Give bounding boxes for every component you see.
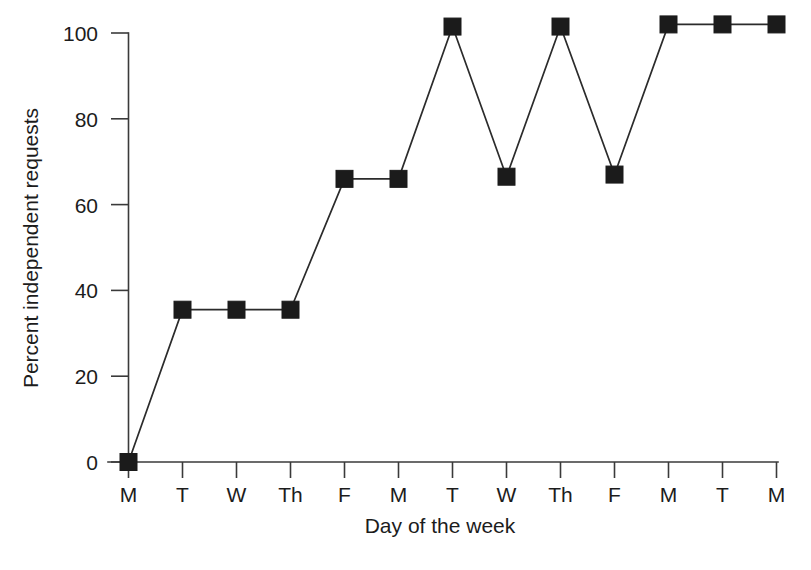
data-point-marker bbox=[174, 301, 191, 318]
data-point-marker bbox=[714, 16, 731, 33]
y-tick-label-20: 20 bbox=[75, 365, 98, 388]
x-tick-label-3: W bbox=[227, 483, 247, 506]
x-tick-label-1: M bbox=[120, 483, 138, 506]
data-point-marker bbox=[390, 170, 407, 187]
x-tick-label-4: Th bbox=[278, 483, 303, 506]
data-point-marker bbox=[498, 168, 515, 185]
x-axis-title: Day of the week bbox=[365, 514, 516, 537]
data-point-marker bbox=[228, 301, 245, 318]
line-chart-canvas: 0 20 40 60 80 100 M T W bbox=[0, 0, 811, 570]
x-tick-label-13: M bbox=[768, 483, 786, 506]
data-point-marker bbox=[768, 16, 785, 33]
data-point-marker bbox=[282, 301, 299, 318]
x-tick-label-11: M bbox=[660, 483, 678, 506]
data-point-marker bbox=[120, 454, 137, 471]
y-tick-label-60: 60 bbox=[75, 194, 98, 217]
data-point-marker bbox=[552, 18, 569, 35]
y-tick-label-80: 80 bbox=[75, 108, 98, 131]
x-tick-label-9: Th bbox=[548, 483, 573, 506]
y-tick-label-0: 0 bbox=[86, 451, 98, 474]
data-point-marker bbox=[660, 16, 677, 33]
x-tick-label-12: T bbox=[716, 483, 729, 506]
x-tick-label-6: M bbox=[390, 483, 408, 506]
x-tick-label-7: T bbox=[446, 483, 459, 506]
x-tick-label-8: W bbox=[497, 483, 517, 506]
y-tick-label-100: 100 bbox=[63, 22, 98, 45]
data-point-marker bbox=[444, 18, 461, 35]
x-tick-label-10: F bbox=[608, 483, 621, 506]
y-axis-title: Percent independent requests bbox=[19, 108, 42, 388]
data-point-marker bbox=[606, 166, 623, 183]
data-point-marker bbox=[336, 170, 353, 187]
chart-figure: 0 20 40 60 80 100 M T W bbox=[0, 0, 811, 570]
y-tick-label-40: 40 bbox=[75, 279, 98, 302]
x-tick-label-2: T bbox=[176, 483, 189, 506]
x-tick-label-5: F bbox=[338, 483, 351, 506]
